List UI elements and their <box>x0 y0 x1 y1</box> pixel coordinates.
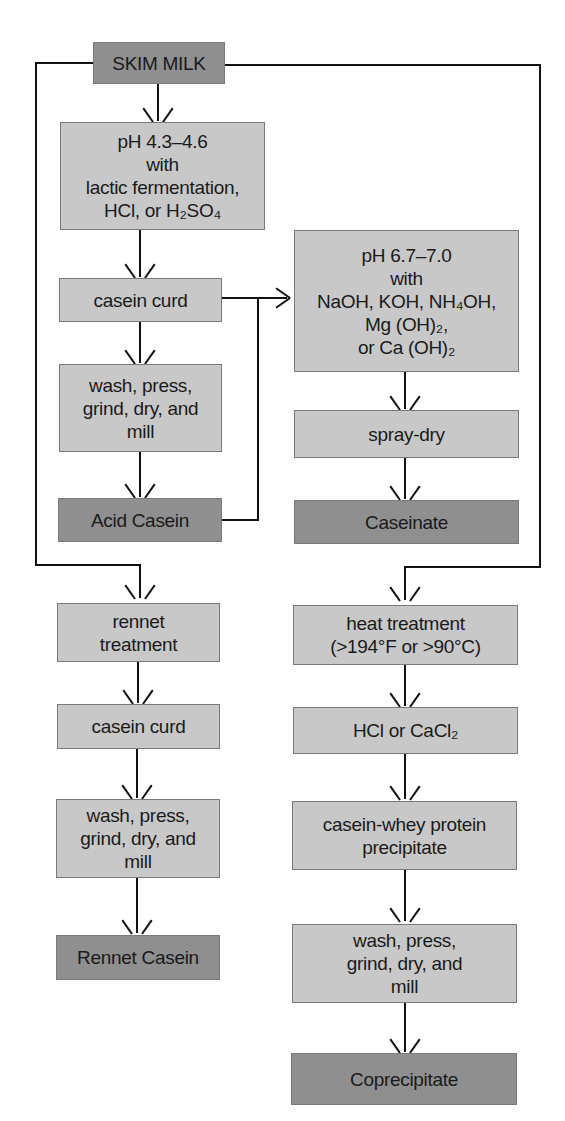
step-line: treatment <box>100 633 178 656</box>
step-line: or Ca (OH)₂ <box>317 336 496 359</box>
step-line: casein-whey protein <box>323 813 486 836</box>
connector-left-vertical <box>35 62 37 566</box>
step-line: Mg (OH)₂, <box>317 313 496 336</box>
connector-heat-drop <box>404 566 406 600</box>
connector-acid-loop-h <box>221 519 259 521</box>
step-line: mill <box>83 420 199 443</box>
wash-press-box: wash, press, grind, dry, and mill <box>59 364 222 452</box>
step-line: grind, dry, and <box>80 827 196 850</box>
connector <box>404 869 406 921</box>
heat-treatment-box: heat treatment (>194°F or >90°C) <box>293 605 518 665</box>
step-line: pH 4.3–4.6 <box>86 130 239 153</box>
connector-curd-right <box>221 297 287 299</box>
spray-dry-box: spray-dry <box>294 410 519 458</box>
step-line: precipitate <box>323 836 486 859</box>
acidify-step-box: pH 4.3–4.6 with lactic fermentation, HCl… <box>60 122 265 230</box>
connector <box>139 321 141 363</box>
connector <box>404 753 406 799</box>
step-line: lactic fermentation, <box>86 176 239 199</box>
step-line: HCl or CaCl₂ <box>353 719 458 742</box>
step-line: rennet <box>100 610 178 633</box>
connector <box>136 748 138 798</box>
casein-curd-box: casein curd <box>57 704 220 749</box>
casein-curd-box: casein curd <box>59 278 222 322</box>
connector-skim-right <box>225 64 541 66</box>
step-line: wash, press, <box>83 374 199 397</box>
product-label: Rennet Casein <box>77 946 199 969</box>
step-line: mill <box>347 975 463 998</box>
connector <box>404 457 406 499</box>
step-line: grind, dry, and <box>347 952 463 975</box>
step-line: casein curd <box>92 715 186 738</box>
rennet-casein-product-box: Rennet Casein <box>56 935 220 980</box>
connector <box>139 229 141 277</box>
step-line: NaOH, KOH, NH₄OH, <box>317 290 496 313</box>
connector-right-to-heat <box>404 566 541 568</box>
hcl-cacl2-box: HCl or CaCl₂ <box>293 707 518 754</box>
connector <box>136 877 138 933</box>
step-line: with <box>317 267 496 290</box>
wash-press-box: wash, press, grind, dry, and mill <box>292 924 517 1003</box>
coprecipitate-product-box: Coprecipitate <box>291 1053 517 1105</box>
casein-whey-precipitate-box: casein-whey protein precipitate <box>292 801 517 870</box>
step-line: mill <box>80 850 196 873</box>
step-line: grind, dry, and <box>83 397 199 420</box>
connector <box>404 1002 406 1052</box>
step-line: wash, press, <box>347 929 463 952</box>
step-line: spray-dry <box>368 423 444 446</box>
skim-milk-box: SKIM MILK <box>93 42 225 84</box>
step-line: wash, press, <box>80 804 196 827</box>
product-label: Acid Casein <box>91 509 189 532</box>
product-label: Coprecipitate <box>350 1068 458 1091</box>
connector-right-vertical <box>539 64 541 568</box>
step-line: with <box>86 153 239 176</box>
connector <box>404 664 406 706</box>
wash-press-box: wash, press, grind, dry, and mill <box>56 799 220 878</box>
product-label: Caseinate <box>365 511 448 534</box>
rennet-treatment-box: rennet treatment <box>57 603 220 662</box>
connector-left-to-rennet <box>35 564 141 566</box>
step-line: casein curd <box>94 289 188 312</box>
step-line: pH 6.7–7.0 <box>317 244 496 267</box>
skim-milk-label: SKIM MILK <box>112 52 205 75</box>
connector <box>157 83 159 121</box>
neutralize-step-box: pH 6.7–7.0 with NaOH, KOH, NH₄OH, Mg (OH… <box>294 230 519 372</box>
connector <box>404 371 406 409</box>
step-line: heat treatment <box>330 612 481 635</box>
connector-skim-left <box>35 62 93 64</box>
acid-casein-product-box: Acid Casein <box>58 498 222 542</box>
connector <box>139 451 141 497</box>
connector-acid-loop-v <box>257 297 259 521</box>
step-line: HCl, or H₂SO₄ <box>86 199 239 222</box>
connector-rennet-drop <box>139 564 141 598</box>
caseinate-product-box: Caseinate <box>294 500 519 544</box>
connector <box>137 661 139 703</box>
step-line: (>194°F or >90°C) <box>330 635 481 658</box>
